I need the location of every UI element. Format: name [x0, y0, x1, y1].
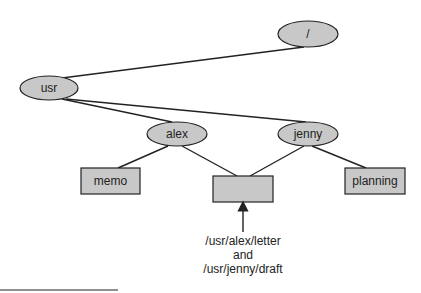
node-shared-file — [213, 176, 273, 202]
annotation-line-1: /usr/alex/letter — [205, 234, 280, 248]
node-jenny: jenny — [278, 122, 338, 146]
edge-jenny-planning — [312, 146, 366, 168]
edge-jenny-shared — [250, 146, 304, 176]
node-planning-label: planning — [352, 174, 397, 188]
node-root: / — [278, 21, 338, 47]
edge-root-usr — [62, 47, 304, 78]
annotation-caption: /usr/alex/letter and /usr/jenny/draft — [203, 234, 283, 276]
annotation-line-3: /usr/jenny/draft — [203, 262, 283, 276]
node-alex-label: alex — [166, 127, 188, 141]
edge-usr-jenny — [66, 99, 306, 122]
node-planning: planning — [345, 168, 405, 194]
node-usr-label: usr — [41, 81, 58, 95]
edge-alex-shared — [182, 146, 237, 176]
node-alex: alex — [147, 122, 207, 146]
node-usr: usr — [20, 76, 78, 100]
edge-usr-alex — [62, 99, 172, 122]
annotation-line-2: and — [233, 248, 253, 262]
edges — [62, 47, 366, 176]
node-jenny-label: jenny — [293, 127, 323, 141]
directory-tree-diagram: / usr alex jenny memo planning — [0, 0, 421, 293]
edge-alex-memo — [118, 146, 168, 168]
node-memo-label: memo — [94, 174, 128, 188]
node-memo: memo — [81, 168, 140, 194]
